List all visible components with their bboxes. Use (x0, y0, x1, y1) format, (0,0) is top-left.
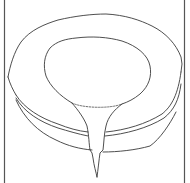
outer-rim-top (8, 14, 182, 77)
diagram-figure (0, 0, 190, 183)
outer-rim-left-edge (8, 77, 16, 95)
funnel-right-wall (97, 104, 122, 177)
band-line-right-3 (103, 112, 176, 152)
drain-opening-dashed (72, 103, 122, 107)
band-line-right-2 (105, 84, 181, 136)
inner-opening (44, 37, 150, 104)
ring-funnel-drawing (0, 0, 190, 183)
band-line-left-1 (16, 95, 88, 132)
funnel-left-wall (72, 103, 97, 177)
